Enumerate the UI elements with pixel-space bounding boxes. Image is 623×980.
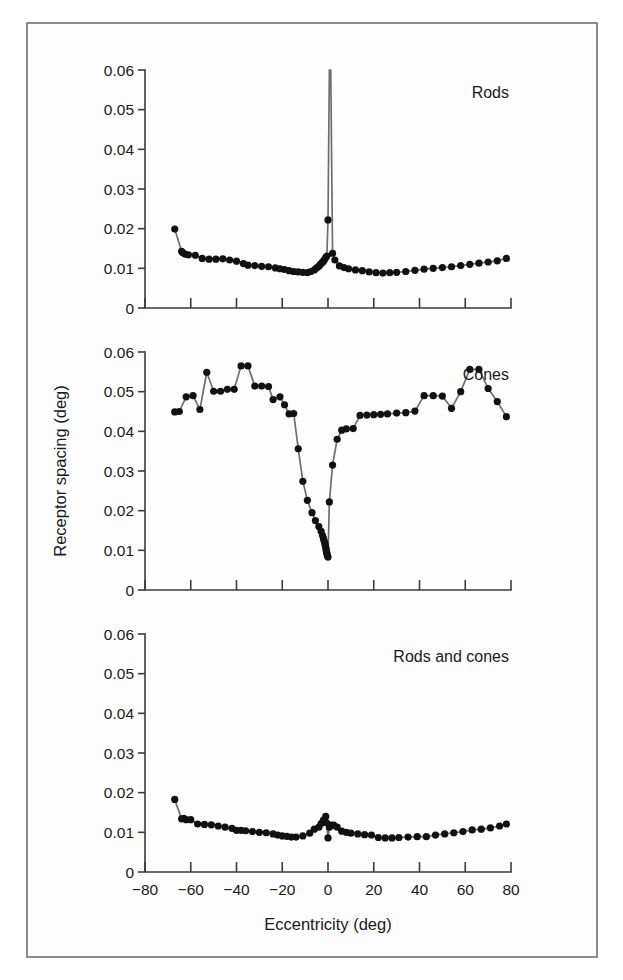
data-point — [395, 834, 402, 841]
data-point — [324, 834, 331, 841]
y-tick-label-1-1: 0.05 — [104, 383, 134, 400]
data-point — [366, 268, 373, 275]
data-point — [347, 830, 354, 837]
data-point — [226, 256, 233, 263]
data-point — [469, 826, 476, 833]
y-tick-label-1-3: 0.03 — [104, 463, 134, 480]
series-line-0 — [175, 70, 507, 273]
x-tick-label-8: 80 — [502, 881, 520, 898]
data-point — [457, 388, 464, 395]
data-point — [292, 833, 299, 840]
data-point — [459, 828, 466, 835]
data-point — [205, 256, 212, 263]
y-tick-label-2-4: 0.02 — [104, 784, 134, 801]
data-point — [503, 820, 510, 827]
data-point — [361, 831, 368, 838]
data-point — [441, 830, 448, 837]
data-point — [388, 834, 395, 841]
data-point — [324, 553, 331, 560]
data-point — [450, 829, 457, 836]
data-point — [404, 833, 411, 840]
data-point — [352, 266, 359, 273]
x-axis-title: Eccentricity (deg) — [264, 915, 391, 933]
data-point — [322, 813, 329, 820]
data-point — [171, 796, 178, 803]
data-point — [329, 250, 336, 257]
data-point — [251, 262, 258, 269]
data-point — [439, 392, 446, 399]
x-tick-label-0: −80 — [132, 881, 159, 898]
data-point — [231, 386, 238, 393]
y-tick-label-0-3: 0.03 — [104, 181, 134, 198]
data-point — [187, 816, 194, 823]
data-point — [244, 362, 251, 369]
y-tick-label-1-5: 0.01 — [104, 542, 134, 559]
data-point — [215, 822, 222, 829]
data-point — [402, 268, 409, 275]
data-point — [251, 383, 258, 390]
data-point — [256, 829, 263, 836]
data-point — [466, 261, 473, 268]
data-point — [221, 824, 228, 831]
data-point — [299, 832, 306, 839]
data-point — [265, 263, 272, 270]
data-point — [487, 824, 494, 831]
data-point — [258, 263, 265, 270]
y-tick-label-2-2: 0.04 — [104, 705, 135, 722]
data-point — [384, 410, 391, 417]
x-tick-label-3: −20 — [269, 881, 296, 898]
data-point — [171, 225, 178, 232]
data-point — [295, 445, 302, 452]
data-point — [354, 830, 361, 837]
panel-label-1: Cones — [463, 366, 509, 383]
data-point — [189, 392, 196, 399]
data-point — [356, 412, 363, 419]
figure-frame: 0.060.050.040.030.020.010Rods0.060.050.0… — [26, 22, 598, 958]
data-point — [377, 411, 384, 418]
data-point — [176, 408, 183, 415]
data-point — [263, 829, 270, 836]
data-point — [359, 267, 366, 274]
y-tick-label-2-6: 0 — [125, 864, 134, 881]
data-point — [276, 393, 283, 400]
data-point — [343, 425, 350, 432]
data-point — [420, 392, 427, 399]
data-point — [503, 413, 510, 420]
data-point — [329, 461, 336, 468]
data-point — [212, 256, 219, 263]
data-point — [411, 408, 418, 415]
data-point — [270, 396, 277, 403]
data-point — [372, 269, 379, 276]
y-tick-label-1-4: 0.02 — [104, 502, 134, 519]
data-point — [494, 398, 501, 405]
series-line-1 — [175, 366, 507, 557]
data-point — [242, 827, 249, 834]
y-tick-label-2-1: 0.05 — [104, 665, 134, 682]
y-tick-label-1-0: 0.06 — [104, 344, 134, 361]
data-point — [249, 828, 256, 835]
data-point — [448, 405, 455, 412]
data-point — [430, 392, 437, 399]
data-point — [494, 257, 501, 264]
y-tick-label-0-2: 0.04 — [104, 141, 135, 158]
receptor-spacing-figure: 0.060.050.040.030.020.010Rods0.060.050.0… — [28, 24, 596, 956]
data-point — [331, 256, 338, 263]
data-point — [432, 832, 439, 839]
data-point — [350, 425, 357, 432]
data-point — [496, 822, 503, 829]
data-point — [402, 409, 409, 416]
data-point — [199, 255, 206, 262]
data-point — [430, 265, 437, 272]
data-point — [219, 255, 226, 262]
data-point — [210, 388, 217, 395]
data-point — [414, 833, 421, 840]
data-point — [393, 269, 400, 276]
data-point — [448, 263, 455, 270]
data-point — [217, 388, 224, 395]
x-tick-label-4: 0 — [324, 881, 333, 898]
data-point — [237, 362, 244, 369]
data-point — [375, 834, 382, 841]
data-point — [423, 833, 430, 840]
data-point — [299, 478, 306, 485]
x-tick-label-6: 40 — [411, 881, 429, 898]
